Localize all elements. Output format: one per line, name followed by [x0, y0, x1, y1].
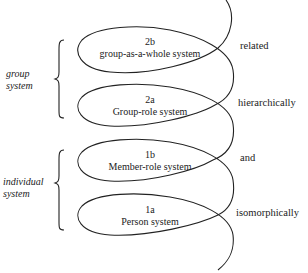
relation-related: related: [240, 40, 269, 51]
individual-system-line1: individual: [3, 176, 44, 188]
group-system-line1: group: [6, 68, 33, 80]
loop-1a-text: Person system: [121, 216, 179, 227]
relation-and: and: [240, 152, 255, 163]
loop-2b-label: 2b group-as-a-whole system: [80, 36, 220, 60]
group-system-label: group system: [6, 68, 33, 92]
loop-2b-text: group-as-a-whole system: [100, 48, 201, 59]
relation-isomorphically: isomorphically: [236, 207, 299, 218]
loop-2b-number: 2b: [80, 36, 220, 48]
relation-hierarchically: hierarchically: [238, 97, 296, 108]
loop-1b-label: 1b Member-role system: [80, 149, 220, 173]
loop-2a-label: 2a Group-role system: [80, 94, 220, 118]
group-brace: [55, 40, 64, 118]
loop-2a-number: 2a: [80, 94, 220, 106]
loop-2a-text: Group-role system: [113, 106, 188, 117]
individual-system-line2: system: [3, 188, 44, 200]
loop-1b-number: 1b: [80, 149, 220, 161]
loop-1a-label: 1a Person system: [80, 204, 220, 228]
loop-1a-number: 1a: [80, 204, 220, 216]
individual-brace: [55, 150, 64, 230]
group-system-line2: system: [6, 80, 33, 92]
individual-system-label: individual system: [3, 176, 44, 200]
loop-1b-text: Member-role system: [109, 161, 192, 172]
